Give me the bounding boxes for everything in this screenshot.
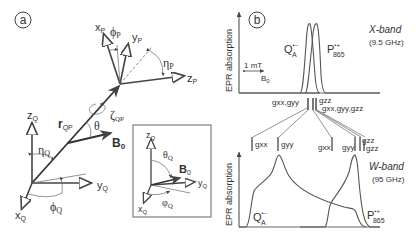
svg-text:xP: xP (95, 21, 106, 34)
panel-a: a xP ϕP yP ηP zP rQP ζQP θ B0 (15, 12, 211, 223)
panel-b: b EPR absorption Q•–A P•+865 X-band (9.5… (224, 12, 405, 227)
svg-text:gxx: gxx (318, 143, 330, 152)
svg-text:gzz: gzz (366, 144, 378, 153)
inset-x-axis (144, 185, 151, 202)
wband-spectrum: EPR absorption Q•–A P•+865 W-band (95 GH… (224, 152, 405, 227)
svg-text:EPR absorption: EPR absorption (224, 163, 234, 226)
inset-box: zQ θQ B0 yQ φQ xQ (133, 125, 211, 217)
svg-text:xQ: xQ (138, 204, 148, 215)
svg-text:B0: B0 (261, 74, 270, 84)
svg-text:P•+865: P•+865 (367, 208, 385, 224)
svg-text:θQ: θQ (163, 149, 173, 162)
svg-text:(95 GHz): (95 GHz) (372, 175, 405, 184)
svg-text:ηP: ηP (163, 56, 174, 71)
svg-text:gxx: gxx (255, 140, 267, 149)
svg-text:EPR absorption: EPR absorption (224, 29, 234, 92)
svg-text:gxx,gyy,gzz: gxx,gyy,gzz (322, 104, 363, 113)
theta-arc (86, 122, 91, 138)
phi-q-arc (28, 177, 62, 197)
svg-text:yP: yP (132, 31, 143, 44)
svg-text:Q•–A: Q•–A (284, 42, 299, 58)
inset-phi-arc (147, 191, 170, 195)
svg-text:ϕQ: ϕQ (50, 200, 62, 215)
xq-axis (22, 183, 32, 208)
svg-text:zP: zP (187, 72, 198, 85)
svg-text:xQ: xQ (15, 209, 27, 223)
svg-text:yQ: yQ (97, 179, 109, 193)
panel-b-label: b (254, 13, 261, 27)
projection-q (32, 174, 86, 183)
svg-text:rQP: rQP (58, 117, 73, 132)
figure: a xP ϕP yP ηP zP rQP ζQP θ B0 (0, 0, 419, 239)
svg-text:B0: B0 (112, 136, 126, 151)
svg-text:(9.5 GHz): (9.5 GHz) (369, 38, 404, 47)
svg-text:P•+865: P•+865 (327, 42, 345, 58)
svg-text:θ: θ (94, 119, 100, 133)
inset-projection (151, 185, 190, 193)
g-markers: gxx,gyy gzz gxx,gyy,gzz gxx gyy gxx gyy … (252, 96, 378, 153)
eta-p-arc (150, 51, 163, 76)
svg-text:gyy: gyy (342, 143, 354, 152)
phi-p-arc (110, 50, 118, 51)
svg-text:ζQP: ζQP (110, 108, 124, 123)
svg-text:W-band: W-band (369, 161, 404, 172)
svg-text:gyy: gyy (281, 140, 293, 149)
projection-dashed (120, 47, 152, 84)
frame-p: xP ϕP yP ηP zP (95, 21, 198, 85)
svg-text:φQ: φQ (162, 197, 173, 210)
svg-text:X-band: X-band (368, 24, 402, 35)
svg-text:B0: B0 (179, 163, 191, 176)
xp-axis (104, 35, 120, 84)
svg-text:gxx,gyy: gxx,gyy (272, 98, 299, 107)
xband-spectrum: EPR absorption Q•–A P•+865 X-band (9.5 G… (224, 12, 404, 93)
svg-text:yQ: yQ (198, 178, 208, 189)
svg-text:Q•–A: Q•–A (253, 210, 268, 226)
panel-a-label: a (20, 13, 27, 27)
zp-axis (120, 76, 183, 84)
svg-text:zQ: zQ (27, 109, 39, 123)
svg-text:zQ: zQ (146, 130, 156, 141)
yp-axis (120, 45, 128, 84)
svg-text:ϕP: ϕP (110, 25, 121, 40)
svg-text:1 mT: 1 mT (244, 61, 262, 70)
inset-theta-arc (151, 160, 171, 178)
svg-text:ηQ: ηQ (38, 143, 50, 158)
